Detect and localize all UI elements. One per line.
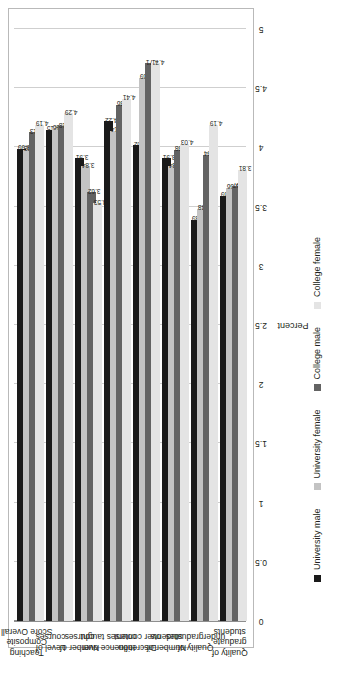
- chart-stage: 3.993.984.134.194.154.164.184.293.913.84…: [0, 0, 360, 700]
- bar-value-label: 3.62: [88, 186, 101, 195]
- legend-swatch-icon: [314, 483, 321, 490]
- bar-group: 3.913.843.984.03: [159, 30, 188, 621]
- legend-item[interactable]: College male: [312, 327, 322, 392]
- bar-group: 4.024.594.714.71: [130, 30, 159, 621]
- legend-item[interactable]: College female: [312, 237, 322, 309]
- bar-group: 3.993.984.134.19: [14, 30, 43, 621]
- bar-group: 4.224.144.364.41: [101, 30, 130, 621]
- value-axis-tick: 3.5: [251, 203, 271, 213]
- category-label: Quality ofgraduatestudents: [186, 626, 272, 658]
- legend-swatch-icon: [314, 575, 321, 582]
- bar: [238, 170, 247, 621]
- value-axis-tick: 4: [251, 143, 271, 153]
- legend-label: University male: [312, 508, 322, 570]
- gridline: [14, 28, 246, 29]
- value-axis-tick: 3: [251, 262, 271, 272]
- value-axis-tick: 1.5: [251, 439, 271, 449]
- legend-swatch-icon: [314, 384, 321, 391]
- plot-area: 3.993.984.134.194.154.164.184.293.913.84…: [0, 0, 300, 700]
- bar-value-label: 3.84: [82, 160, 95, 169]
- legend-item[interactable]: University male: [312, 508, 322, 582]
- value-axis-tick: 4.5: [251, 84, 271, 94]
- legend-item[interactable]: University female: [312, 409, 322, 490]
- value-axis-tick: 2: [251, 380, 271, 390]
- bar-group: 3.913.843.623.53: [72, 30, 101, 621]
- bar-group: 3.393.483.944.19: [188, 30, 217, 621]
- value-axis-tick: 1: [251, 499, 271, 509]
- category-label-line: students: [213, 627, 245, 637]
- chart-canvas: 3.993.984.134.194.154.164.184.293.913.84…: [0, 0, 360, 700]
- bar-group: 4.154.164.184.29: [43, 30, 72, 621]
- legend-swatch-icon: [314, 302, 321, 309]
- bar-group: 3.593.663.673.81: [217, 30, 246, 621]
- legend-label: University female: [312, 409, 322, 478]
- category-label-line: graduate: [212, 637, 246, 647]
- bars-region: 3.993.984.134.194.154.164.184.293.913.84…: [14, 30, 246, 622]
- value-axis-tick: 5: [251, 25, 271, 35]
- chart-legend: University maleUniversity femaleCollege …: [312, 237, 322, 582]
- value-axis-tick: 0.5: [251, 558, 271, 568]
- legend-label: College female: [312, 237, 322, 297]
- bar-value-label: 3.81: [239, 164, 252, 173]
- category-label-line: Quality of: [211, 648, 247, 658]
- legend-label: College male: [312, 327, 322, 380]
